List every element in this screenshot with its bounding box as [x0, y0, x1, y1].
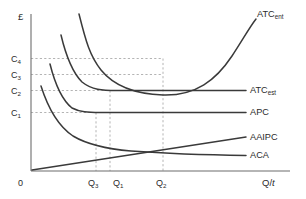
y-tick-c1: C1 [11, 108, 22, 119]
x-tick-labels: Q3 Q1 Q2 [88, 178, 167, 189]
curve-aaipc [32, 137, 246, 170]
x-tick-q1: Q1 [113, 178, 124, 189]
origin-label: 0 [18, 178, 23, 188]
curve-label-atc-ent: ATCent [257, 9, 284, 20]
curve-aca [41, 86, 246, 156]
curve-labels: ATCent ATCest APC AAIPC ACA [250, 9, 284, 160]
curve-apc [50, 64, 246, 113]
x-tick-q2: Q2 [156, 178, 167, 189]
curve-label-aca: ACA [250, 150, 270, 160]
curve-label-aaipc: AAIPC [250, 132, 278, 142]
y-tick-labels: C4 C3 C2 C1 [11, 54, 22, 119]
y-tick-c3: C3 [11, 70, 22, 81]
x-axis-label: Q/t [262, 177, 275, 188]
x-tick-q3: Q3 [88, 178, 99, 189]
y-axis-label: £ [18, 11, 24, 22]
curves [32, 14, 256, 170]
curve-atc-est [61, 35, 246, 91]
curve-atc-ent [79, 14, 256, 95]
curve-label-apc: APC [250, 107, 269, 117]
curve-label-atc-est: ATCest [250, 85, 276, 96]
y-tick-c2: C2 [11, 86, 22, 97]
guide-lines [31, 59, 163, 172]
chart-canvas: £ C4 C3 C2 C1 0 Q3 Q1 [0, 0, 306, 199]
y-tick-c4: C4 [11, 54, 22, 65]
cost-curve-figure: £ C4 C3 C2 C1 0 Q3 Q1 [0, 0, 306, 199]
